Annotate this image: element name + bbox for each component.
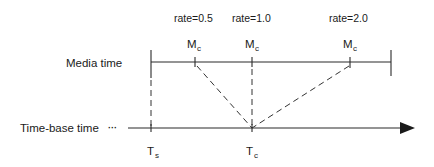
svg-text:c: c [353,44,357,53]
ts-label: T s [147,145,159,160]
media-timebase-diagram: rate=0.5 rate=1.0 rate=2.0 M c M c M c M… [0,0,434,167]
svg-text:s: s [155,151,159,160]
rate-0-5-dashed-line [197,66,252,128]
svg-text:c: c [255,44,259,53]
rate-label-1-0: rate=1.0 [232,12,271,24]
svg-text:T: T [246,145,253,157]
media-time-label: Media time [66,57,122,69]
timebase-time-axis [128,122,415,134]
rate-2-0-dashed-line [252,66,349,128]
svg-text:M: M [187,38,197,50]
arrow-right-icon [400,122,415,134]
timebase-time-label: Time-base time [20,122,99,134]
mc-label-rate-1-0: M c [245,38,259,53]
svg-text:c: c [197,44,201,53]
media-time-axis [151,50,391,78]
mc-label-rate-0-5: M c [187,38,201,53]
ellipsis-icon: ··· [108,123,117,133]
svg-text:M: M [245,38,255,50]
diagram-canvas: rate=0.5 rate=1.0 rate=2.0 M c M c M c M… [0,0,434,167]
svg-text:c: c [254,151,258,160]
rate-label-2-0: rate=2.0 [329,12,368,24]
projection-lines [151,66,349,128]
tc-label: T c [246,145,258,160]
mc-label-rate-2-0: M c [343,38,357,53]
svg-text:M: M [343,38,353,50]
rate-label-0-5: rate=0.5 [174,12,213,24]
svg-text:T: T [147,145,154,157]
